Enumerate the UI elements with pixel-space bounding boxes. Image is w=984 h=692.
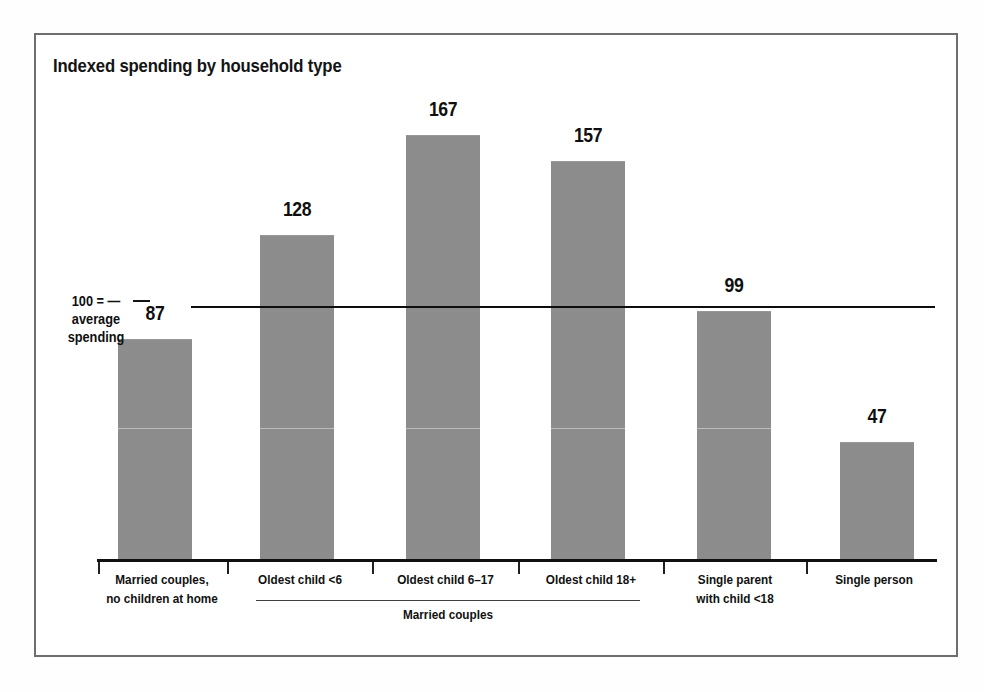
bar-single-person (840, 442, 914, 560)
bar-oldest-child-under-6 (260, 235, 334, 560)
bar-value-label: 128 (266, 197, 328, 221)
axis-tick (806, 562, 808, 574)
bar-value-label: 157 (557, 123, 619, 147)
bar-value-label: 99 (703, 273, 765, 297)
reference-line-100 (191, 306, 935, 308)
reference-label-line3: spending (50, 328, 142, 346)
bar-value-label: 167 (412, 97, 474, 121)
axis-tick (518, 562, 520, 574)
category-label-line1: Single person (835, 572, 913, 587)
category-label-line2: with child <18 (675, 589, 795, 608)
category-label-single-parent: Single parent with child <18 (675, 570, 795, 608)
axis-tick (98, 562, 100, 574)
scan-artifact-line (97, 428, 935, 429)
bar-married-no-children (118, 339, 192, 560)
category-label-line1: Oldest child 18+ (546, 572, 636, 587)
group-bracket-line (256, 600, 640, 601)
axis-tick (663, 562, 665, 574)
bar-single-parent (697, 311, 771, 560)
category-label-oldest-child-18-plus: Oldest child 18+ (530, 570, 652, 589)
x-axis-line (97, 559, 937, 562)
category-label-line1: Oldest child 6–17 (397, 572, 494, 587)
chart-page: Indexed spending by household type 100 =… (0, 0, 984, 692)
category-label-line2: no children at home (104, 589, 221, 608)
category-label-line1: Married couples, (115, 572, 208, 587)
group-bracket-label: Married couples (281, 607, 615, 622)
category-label-line1: Oldest child <6 (258, 572, 342, 587)
bar-value-label: 87 (124, 301, 186, 325)
bar-value-label: 47 (846, 404, 908, 428)
category-label-oldest-child-under-6: Oldest child <6 (239, 570, 361, 589)
plot-area: 100 = — average spending 87 128 167 157 … (0, 0, 984, 692)
bar-oldest-child-18-plus (551, 161, 625, 560)
category-label-line1: Single parent (698, 572, 772, 587)
category-label-oldest-child-6-17: Oldest child 6–17 (384, 570, 507, 589)
axis-tick (227, 562, 229, 574)
category-label-single-person: Single person (817, 570, 932, 589)
axis-tick (372, 562, 374, 574)
category-label-married-no-children: Married couples, no children at home (104, 570, 221, 608)
bar-oldest-child-6-17 (406, 135, 480, 560)
